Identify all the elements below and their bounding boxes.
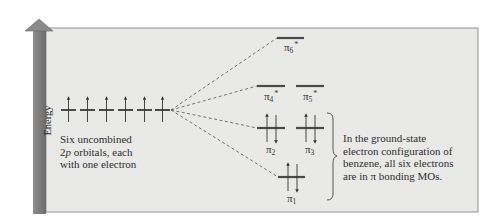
- diagram-panel: [46, 28, 478, 212]
- caption-line-1: Six uncombined: [60, 133, 136, 146]
- atomic-orbitals-caption: Six uncombined 2p orbitals, each with on…: [60, 133, 136, 171]
- label-pi2: π2: [266, 143, 275, 157]
- note-line-1: In the ground-state: [343, 132, 454, 145]
- energy-axis-label: Energy: [42, 101, 53, 141]
- caption-line-2: 2p orbitals, each: [60, 146, 136, 159]
- label-pi4-star: π4*: [264, 89, 278, 104]
- benzene-mo-diagram: [0, 0, 501, 223]
- note-line-3: benzene, all six electrons: [343, 157, 454, 170]
- caption-line-3: with one electron: [60, 158, 136, 171]
- label-pi3: π3: [305, 143, 314, 157]
- note-line-2: electron configuration of: [343, 145, 454, 158]
- note-line-4: are in π bonding MOs.: [343, 170, 454, 183]
- label-pi6-star: π6*: [284, 40, 298, 55]
- ground-state-note: In the ground-state electron configurati…: [343, 132, 454, 182]
- label-pi1: π1: [287, 192, 296, 206]
- label-pi5-star: π5*: [303, 89, 317, 104]
